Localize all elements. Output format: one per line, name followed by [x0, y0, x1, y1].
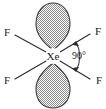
- angle-marker: 90°: [72, 41, 86, 72]
- molecular-structure-diagram: Xe F F F F 90°: [0, 0, 106, 109]
- central-atom-label: Xe: [47, 50, 60, 62]
- ligand-label-f-top-right: F: [95, 25, 101, 37]
- orbital-lobe-top: [36, 3, 70, 50]
- ligand-label-f-bottom-left: F: [4, 74, 10, 86]
- central-atom: Xe: [45, 48, 61, 64]
- orbital-lobe-bottom: [36, 63, 70, 108]
- diagram-canvas: Xe F F F F 90°: [0, 0, 106, 109]
- ligand-label-f-top-left: F: [4, 26, 10, 38]
- ligand-label-f-bottom-right: F: [96, 74, 102, 86]
- angle-label: 90°: [72, 50, 86, 61]
